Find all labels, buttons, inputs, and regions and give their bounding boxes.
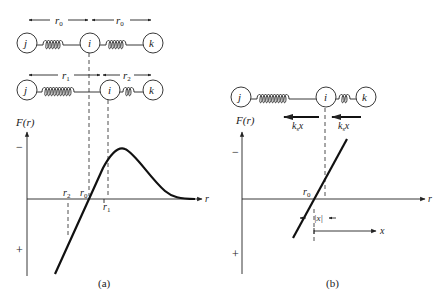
panel-b: j i k ksx ksx F(r) r − + r0 <box>231 87 432 290</box>
spring-ik-bottom <box>120 88 143 96</box>
diagram-svg: r0 r0 j i k r1 r2 <box>0 0 443 301</box>
atom-k-bottom-label: k <box>149 84 155 96</box>
x-displacement-arrow <box>314 228 376 234</box>
dim-r0-left: r0 <box>55 14 63 28</box>
sign-minus-b: − <box>232 145 239 159</box>
atom-k-top-label: k <box>149 37 155 49</box>
spring-ji-top <box>37 41 80 49</box>
spring-ik-top <box>100 41 143 49</box>
sign-plus-a: + <box>16 243 23 257</box>
axes-b <box>242 132 425 274</box>
marker-r0-b: r0 <box>303 186 311 199</box>
force-curve-a <box>55 148 195 274</box>
atom-i-b-label: i <box>324 91 327 103</box>
caption-a: (a) <box>98 277 111 290</box>
y-axis-label-a: F(r) <box>15 116 35 129</box>
marker-r2: r2 <box>63 187 71 200</box>
marker-r1: r1 <box>103 201 111 214</box>
y-axis-label-b: F(r) <box>235 114 255 127</box>
dashed-guides-a <box>68 53 108 238</box>
atom-i-top-label: i <box>88 37 91 49</box>
axes-a <box>27 132 202 276</box>
panel-a: r0 r0 j i k r1 r2 <box>15 14 209 290</box>
spring-ik-b <box>336 95 356 103</box>
x-label: x <box>379 225 385 236</box>
atom-j-top-label: j <box>22 37 27 49</box>
sign-minus-a: − <box>16 140 23 154</box>
left-force-label: ksx <box>292 120 304 132</box>
dim-r2: r2 <box>123 69 131 83</box>
atom-j-b-label: j <box>236 91 241 103</box>
right-force-label: ksx <box>338 120 350 132</box>
chain-b <box>231 87 376 107</box>
spring-ji-bottom <box>37 88 100 96</box>
sign-plus-b: + <box>232 247 239 261</box>
bottom-chain <box>17 80 163 100</box>
force-line-b <box>293 139 347 238</box>
abs-x-label: |x| <box>314 213 323 223</box>
dim-r0-right: r0 <box>116 14 124 28</box>
atom-i-bottom-label: i <box>108 84 111 96</box>
atom-j-bottom-label: j <box>22 84 27 96</box>
diagram-root: r0 r0 j i k r1 r2 <box>0 0 443 301</box>
caption-b: (b) <box>326 277 339 290</box>
x-axis-label-b: r <box>428 193 432 204</box>
dim-r1: r1 <box>62 69 70 83</box>
marker-r0: r0 <box>80 187 88 200</box>
spring-ji-b <box>251 95 316 103</box>
atom-k-b-label: k <box>362 91 368 103</box>
x-axis-label-a: r <box>205 193 209 204</box>
